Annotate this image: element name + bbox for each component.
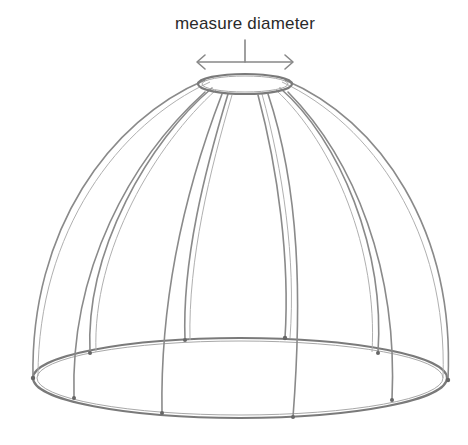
top-ring xyxy=(198,74,292,94)
lampshade-frame-illustration xyxy=(0,0,468,445)
frame-ribs xyxy=(33,80,449,417)
base-ring xyxy=(33,338,447,418)
diameter-arrow-icon xyxy=(197,40,293,69)
